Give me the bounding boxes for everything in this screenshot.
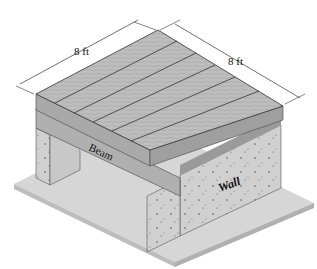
deck-diagram: Beam 8 ft 8 ft Wall: [0, 0, 317, 269]
dimension-left-label: 8 ft: [74, 45, 89, 57]
dimension-right-label: 8 ft: [228, 55, 243, 67]
